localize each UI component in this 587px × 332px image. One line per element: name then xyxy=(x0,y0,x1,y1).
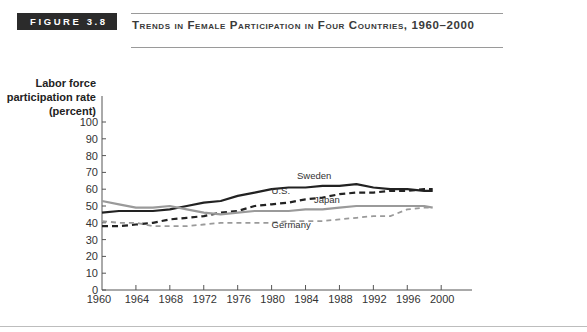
y-tick-label: 90 xyxy=(86,133,98,145)
y-tick-label: 80 xyxy=(86,150,98,162)
y-tick-label: 70 xyxy=(86,166,98,178)
y-tick-label: 60 xyxy=(86,183,98,195)
series-label: Germany xyxy=(272,219,311,230)
y-tick-label: 20 xyxy=(86,250,98,262)
x-tick-label: 1972 xyxy=(193,293,217,305)
line-chart: 0102030405060708090100196019641968197219… xyxy=(0,0,587,332)
y-tick-label: 30 xyxy=(86,234,98,246)
series-label: Sweden xyxy=(297,170,331,181)
series-japan xyxy=(102,201,433,214)
x-tick-label: 1988 xyxy=(328,293,352,305)
x-tick-label: 1992 xyxy=(362,293,386,305)
x-tick-label: 1976 xyxy=(226,293,250,305)
series-label: U.S. xyxy=(272,185,290,196)
y-tick-label: 50 xyxy=(86,200,98,212)
x-tick-label: 1964 xyxy=(125,293,149,305)
series-label: Japan xyxy=(314,194,340,205)
x-tick-label: 2000 xyxy=(430,293,454,305)
x-tick-label: 1968 xyxy=(159,293,183,305)
y-tick-label: 100 xyxy=(80,116,98,128)
axes: 0102030405060708090100196019641968197219… xyxy=(80,96,472,305)
x-tick-label: 1980 xyxy=(260,293,284,305)
y-tick-label: 10 xyxy=(86,267,98,279)
x-tick-label: 1996 xyxy=(396,293,420,305)
bottom-rule xyxy=(0,326,587,327)
series-lines xyxy=(102,184,433,226)
x-tick-label: 1984 xyxy=(294,293,318,305)
y-tick-label: 40 xyxy=(86,217,98,229)
x-tick-label: 1960 xyxy=(87,293,111,305)
